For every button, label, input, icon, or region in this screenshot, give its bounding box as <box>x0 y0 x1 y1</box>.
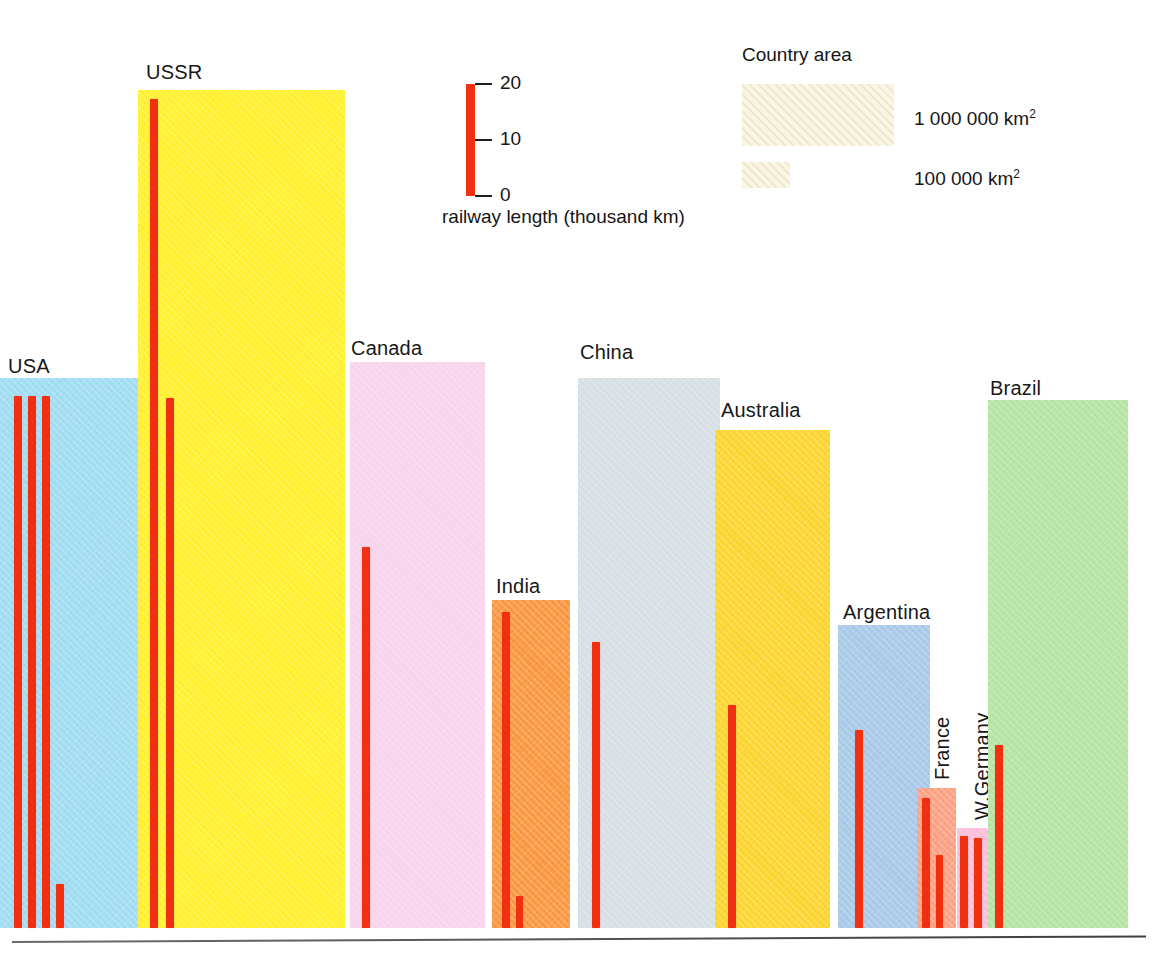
scale-tick-label-20: 20 <box>500 73 521 92</box>
railway-bar-argentina-1 <box>855 730 863 928</box>
railway-bar-usa-1 <box>14 396 22 928</box>
railway-bar-usa-3 <box>42 396 50 928</box>
country-label-brazil: Brazil <box>990 378 1041 398</box>
country-label-australia: Australia <box>721 400 801 420</box>
country-area-key-title: Country area <box>742 44 1072 65</box>
area-block-texture <box>350 362 485 928</box>
area-key-exponent: 2 <box>1029 107 1036 121</box>
area-key-exponent: 2 <box>1013 167 1020 181</box>
area-block-canada <box>350 362 485 928</box>
country-area-key: Country area 1 000 000 km2100 000 km2 <box>742 44 1072 204</box>
area-key-row-1 <box>742 84 894 146</box>
area-key-swatch-large <box>742 84 894 146</box>
railway-bar-india-1 <box>502 612 510 928</box>
country-label-argentina: Argentina <box>843 602 930 622</box>
scale-tick-0 <box>475 195 492 197</box>
scale-key-caption: railway length (thousand km) <box>442 206 685 228</box>
chart-canvas: USAUSSRCanadaIndiaChinaAustraliaArgentin… <box>0 0 1158 972</box>
scale-key-bar <box>466 84 475 196</box>
railway-bar-ussr-2 <box>166 398 174 928</box>
scale-tick-20 <box>475 83 492 85</box>
country-label-ussr: USSR <box>146 62 202 82</box>
railway-bar-wgermany-2 <box>974 838 982 928</box>
country-label-china: China <box>580 342 633 362</box>
area-key-row-2 <box>742 162 790 188</box>
railway-bar-usa-2 <box>28 396 36 928</box>
scale-tick-10 <box>475 139 492 141</box>
baseline-rule <box>12 935 1146 943</box>
railway-bar-france-2 <box>936 855 943 928</box>
area-block-texture <box>988 400 1128 928</box>
country-label-india: India <box>496 576 540 596</box>
railway-bar-canada-1 <box>362 547 370 928</box>
country-label-france: France <box>932 717 952 780</box>
railway-scale-key: 20100 railway length (thousand km) <box>466 80 756 230</box>
area-key-label-small: 100 000 km2 <box>914 164 1020 189</box>
area-block-brazil <box>988 400 1128 928</box>
railway-bar-china-1 <box>592 642 600 928</box>
railway-bar-brazil-1 <box>995 745 1003 928</box>
railway-bar-ussr-1 <box>150 99 158 928</box>
railway-bar-australia-1 <box>728 705 736 928</box>
scale-tick-label-0: 0 <box>500 185 511 204</box>
railway-bar-france-1 <box>922 798 930 928</box>
railway-bar-wgermany-1 <box>960 836 968 928</box>
scale-tick-label-10: 10 <box>500 129 521 148</box>
railway-bar-india-2 <box>516 896 523 928</box>
railway-bar-usa-4 <box>56 884 64 928</box>
country-label-usa: USA <box>8 356 50 376</box>
area-key-label-large: 1 000 000 km2 <box>914 104 1036 129</box>
country-label-canada: Canada <box>351 338 422 358</box>
area-key-swatch-small <box>742 162 790 188</box>
